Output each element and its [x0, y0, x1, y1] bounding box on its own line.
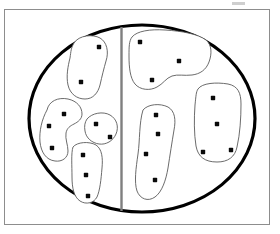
partition-diagram: Partitioned region diagram with clustere…: [0, 0, 280, 234]
scan-artifact-smudge: [232, 2, 245, 5]
data-point: [94, 122, 98, 126]
data-point: [215, 122, 219, 126]
data-point: [97, 45, 101, 49]
data-point: [79, 80, 83, 84]
data-point: [156, 132, 160, 136]
data-point: [81, 153, 85, 157]
figure-container: Partitioned region diagram with clustere…: [0, 0, 280, 234]
cluster-left-small-oval-outline: [85, 113, 118, 144]
data-point: [229, 148, 233, 152]
data-point: [211, 96, 215, 100]
data-point: [150, 78, 154, 82]
data-point: [154, 113, 158, 117]
data-point: [108, 135, 112, 139]
data-point: [50, 146, 54, 150]
data-point: [144, 152, 148, 156]
data-point: [177, 59, 181, 63]
data-point: [153, 178, 157, 182]
data-point: [138, 40, 142, 44]
data-point: [84, 173, 88, 177]
data-point: [86, 194, 90, 198]
data-point: [47, 124, 51, 128]
data-point: [201, 150, 205, 154]
data-point: [62, 112, 66, 116]
